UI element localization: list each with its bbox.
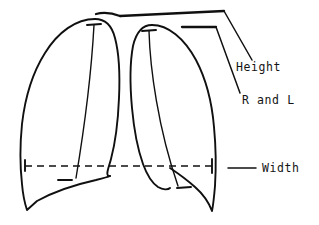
right-lung-base-tick	[177, 187, 191, 188]
left-lung-outline	[21, 19, 111, 210]
r-and-l-label: R and L	[242, 95, 295, 107]
right-lung-apex-tick	[142, 30, 156, 31]
right-lung-outline	[152, 25, 216, 211]
lung-measurement-diagram: Height R and L Width	[0, 0, 319, 225]
upper-height-bracket	[120, 11, 224, 16]
diagram-canvas	[0, 0, 319, 225]
right-lung-inner-line	[149, 31, 178, 186]
left-lung-apex-tick	[87, 24, 101, 25]
left-lung-medial-border	[95, 19, 119, 176]
width-label: Width	[262, 163, 300, 175]
leader-line-height	[224, 11, 252, 60]
height-label: Height	[236, 62, 281, 74]
upper-bracket-left-flick	[96, 13, 120, 16]
left-lung-inner-line	[76, 25, 94, 178]
